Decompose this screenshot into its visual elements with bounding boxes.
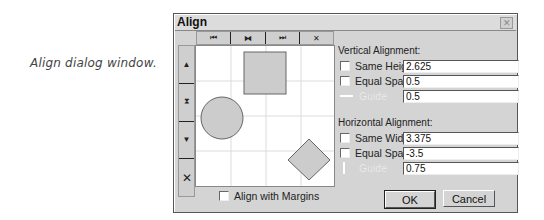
ok-button[interactable]: OK xyxy=(385,191,435,208)
v-guide-option: Guide xyxy=(340,90,387,102)
same-width-checkbox[interactable]: Same Width xyxy=(340,132,412,144)
v-equal-spacing-field[interactable]: 0.5 xyxy=(403,75,519,88)
h-equal-spacing-field[interactable]: -3.5 xyxy=(403,147,519,160)
x-icon: ✕ xyxy=(182,171,192,185)
align-bottom-icon: ▼ xyxy=(183,135,191,144)
checkbox-icon xyxy=(340,76,350,86)
align-left-button[interactable]: ⏮ xyxy=(197,32,231,44)
figure-caption: Align dialog window. xyxy=(30,56,157,70)
title-bar[interactable]: Align ✕ xyxy=(175,15,516,31)
align-right-button[interactable]: ⏭ xyxy=(266,32,300,44)
align-right-icon: ⏭ xyxy=(279,33,286,43)
h-guide-label: Guide xyxy=(359,162,387,174)
v-guide-field[interactable]: 0.5 xyxy=(403,90,519,103)
horizontal-guide-icon xyxy=(340,95,353,97)
vertical-align-toolbar: ▲ ⧗ ▼ ✕ xyxy=(178,45,195,197)
diamond-shape xyxy=(288,139,330,180)
checkbox-icon xyxy=(340,148,350,158)
align-middle-vertical-icon: ⧗ xyxy=(184,97,190,107)
horizontal-align-toolbar: ⏮ ⧓ ⏭ ✕ xyxy=(196,31,334,45)
align-center-horizontal-icon: ⧓ xyxy=(244,34,252,43)
horizontal-alignment-label: Horizontal Alignment: xyxy=(338,117,433,128)
align-with-margins-checkbox[interactable]: Align with Margins xyxy=(219,190,319,202)
x-icon: ✕ xyxy=(313,34,320,43)
circle-shape xyxy=(201,97,243,139)
checkbox-icon xyxy=(340,133,350,143)
checkbox-icon xyxy=(340,61,350,71)
align-with-margins-label: Align with Margins xyxy=(234,190,319,202)
cancel-button[interactable]: Cancel xyxy=(443,190,495,207)
align-dialog: Align ✕ ⏮ ⧓ ⏭ ✕ ▲ ⧗ ▼ ✕ Vertical Al xyxy=(173,13,518,213)
checkbox-icon xyxy=(219,191,229,201)
align-left-icon: ⏮ xyxy=(210,33,217,43)
align-center-horizontal-button[interactable]: ⧓ xyxy=(231,32,265,44)
align-top-icon: ▲ xyxy=(183,60,191,69)
same-height-field[interactable]: 2.625 xyxy=(403,60,519,73)
preview-graphic xyxy=(196,46,334,186)
same-width-field[interactable]: 3.375 xyxy=(403,132,519,145)
align-top-button[interactable]: ▲ xyxy=(179,46,194,84)
vertical-guide-icon xyxy=(343,162,345,174)
vertical-alignment-label: Vertical Alignment: xyxy=(338,45,420,56)
dialog-title: Align xyxy=(177,15,207,29)
no-horizontal-align-button[interactable]: ✕ xyxy=(300,32,333,44)
align-middle-vertical-button[interactable]: ⧗ xyxy=(179,84,194,122)
h-guide-field[interactable]: 0.75 xyxy=(403,162,519,175)
align-bottom-button[interactable]: ▼ xyxy=(179,122,194,160)
h-guide-option: Guide xyxy=(340,162,387,174)
close-button[interactable]: ✕ xyxy=(500,17,513,29)
no-vertical-align-button[interactable]: ✕ xyxy=(179,159,194,196)
square-shape xyxy=(244,52,286,94)
alignment-preview xyxy=(195,45,335,187)
v-guide-label: Guide xyxy=(359,90,387,102)
